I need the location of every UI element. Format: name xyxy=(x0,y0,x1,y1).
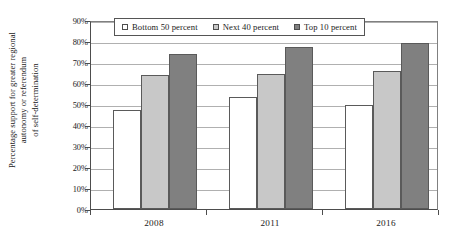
y-axis-title: Percentage support for greater regional … xyxy=(0,0,48,200)
x-axis-tick-mark xyxy=(90,210,91,215)
x-axis-tick-mark xyxy=(206,210,207,215)
legend-swatch-icon xyxy=(294,24,300,30)
legend-label: Top 10 percent xyxy=(304,23,357,32)
bars-layer xyxy=(91,22,437,209)
bar xyxy=(169,54,197,209)
bar xyxy=(229,97,257,209)
bar xyxy=(345,105,373,209)
y-axis-tick-label: 50% xyxy=(58,101,88,110)
y-axis-tick-label: 70% xyxy=(58,59,88,68)
bar xyxy=(141,75,169,209)
x-axis-tick-label-2011: 2011 xyxy=(235,218,305,229)
legend-item-1: Next 40 percent xyxy=(213,23,279,32)
bar-group-2011 xyxy=(207,22,323,209)
y-axis-tick-label: 0% xyxy=(58,206,88,215)
bar xyxy=(401,43,429,209)
x-axis-tick-mark xyxy=(322,210,323,215)
y-axis-tick-label: 10% xyxy=(58,185,88,194)
legend-swatch-icon xyxy=(213,24,219,30)
legend-item-0: Bottom 50 percent xyxy=(122,23,198,32)
y-axis-tick-label: 80% xyxy=(58,38,88,47)
x-axis-tick-label-2008: 2008 xyxy=(119,218,189,229)
legend-label: Bottom 50 percent xyxy=(132,23,198,32)
y-axis-tick-label: 20% xyxy=(58,164,88,173)
y-axis-tick-label: 60% xyxy=(58,80,88,89)
legend-label: Next 40 percent xyxy=(223,23,279,32)
x-axis-tick-mark xyxy=(438,210,439,215)
y-axis-tick-label: 90% xyxy=(58,17,88,26)
bar xyxy=(113,110,141,209)
bar-group-2016 xyxy=(323,22,439,209)
bar xyxy=(257,74,285,209)
bar xyxy=(285,47,313,209)
bar-group-2008 xyxy=(91,22,207,209)
y-axis-title-line-3: of self-determination xyxy=(30,63,41,136)
bar xyxy=(373,71,401,209)
y-axis-tick-label: 40% xyxy=(58,122,88,131)
y-axis-title-line-1: Percentage support for greater regional xyxy=(7,32,18,168)
chart-legend: Bottom 50 percentNext 40 percentTop 10 p… xyxy=(114,18,365,36)
y-axis-tick-label: 30% xyxy=(58,143,88,152)
legend-swatch-icon xyxy=(122,24,128,30)
y-axis-tick-labels: 0%10%20%30%40%50%60%70%80%90% xyxy=(58,21,88,210)
plot-area xyxy=(90,21,438,210)
y-axis-title-line-2: autonomy or referendum xyxy=(18,57,29,144)
x-axis-tick-label-2016: 2016 xyxy=(351,218,421,229)
bar-chart-figure: Percentage support for greater regional … xyxy=(0,0,457,241)
legend-item-2: Top 10 percent xyxy=(294,23,357,32)
